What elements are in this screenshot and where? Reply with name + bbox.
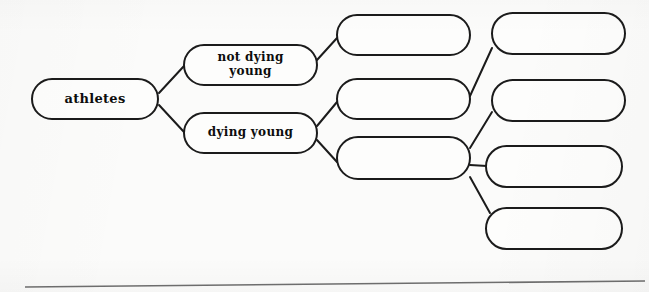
node-right-2[interactable] bbox=[491, 79, 626, 122]
node-athletes[interactable]: athletes bbox=[31, 78, 159, 120]
node-label-mid-2 bbox=[396, 99, 412, 100]
node-mid-2[interactable] bbox=[336, 78, 471, 120]
node-not-dying-young[interactable]: not dying young bbox=[183, 44, 318, 86]
node-right-1[interactable] bbox=[491, 12, 626, 55]
bottom-divider-line bbox=[25, 281, 645, 287]
node-mid-3[interactable] bbox=[336, 136, 471, 180]
connector-athletes-to-not-dying-young bbox=[159, 66, 184, 93]
node-label-right-4 bbox=[546, 228, 562, 229]
node-label-not-dying-young: not dying young bbox=[209, 51, 291, 79]
node-label-right-3 bbox=[546, 166, 562, 167]
node-mid-1[interactable] bbox=[336, 14, 471, 56]
connector-mid-3-to-right-2 bbox=[470, 112, 492, 148]
connector-mid-2-to-right-1 bbox=[470, 48, 492, 96]
connector-dying-young-to-mid-2 bbox=[317, 102, 337, 126]
node-label-mid-1 bbox=[396, 35, 412, 36]
node-label-right-1 bbox=[551, 33, 567, 34]
node-right-3[interactable] bbox=[485, 145, 623, 188]
node-label-athletes: athletes bbox=[56, 92, 133, 107]
connector-athletes-to-dying-young bbox=[159, 105, 184, 132]
node-dying-young[interactable]: dying young bbox=[183, 112, 318, 154]
node-label-right-2 bbox=[551, 100, 567, 101]
connector-not-dying-young-to-mid-1 bbox=[317, 38, 337, 60]
connector-dying-young-to-mid-3 bbox=[317, 140, 337, 162]
node-label-mid-3 bbox=[396, 158, 412, 159]
bottom-divider bbox=[25, 281, 645, 287]
diagram-canvas: athletesnot dying youngdying young bbox=[0, 0, 649, 292]
connector-mid-3-to-right-4 bbox=[470, 177, 490, 213]
node-label-dying-young: dying young bbox=[200, 126, 301, 140]
node-right-4[interactable] bbox=[485, 207, 623, 250]
